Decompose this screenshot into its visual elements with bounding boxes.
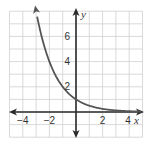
y-axis-label: y [80,8,86,20]
x-tick-label: 2 [100,115,106,126]
axes [9,8,144,138]
x-tick-label: −2 [44,115,56,126]
y-tick-label: 4 [64,56,70,67]
curve-arrow-icon [33,5,40,14]
y-tick-label: 2 [64,81,70,92]
y-tick-label: 6 [64,31,70,42]
x-axis-label: x [133,114,139,126]
x-tick-label: 4 [125,115,131,126]
x-tick-label: −4 [17,115,29,126]
tick-labels: −4 −2 2 4 x 2 4 6 y [17,8,139,126]
graph: −4 −2 2 4 x 2 4 6 y [0,0,151,148]
